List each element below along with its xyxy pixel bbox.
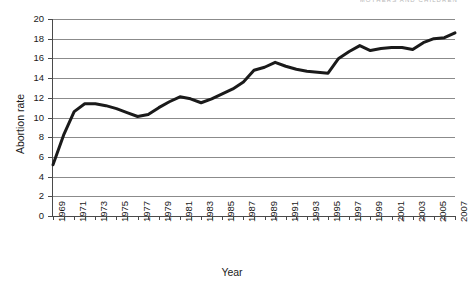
y-axis-title: Abortion rate: [14, 74, 26, 174]
x-axis-title: Year: [0, 266, 464, 278]
